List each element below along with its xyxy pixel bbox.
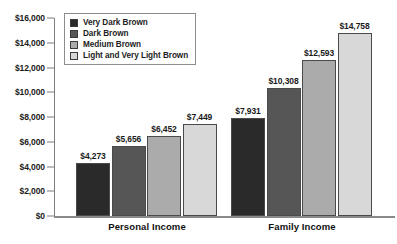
bar[interactable]: [231, 118, 265, 216]
y-axis-labels: $16,000$14,000$12,000$10,000$8,000$6,000…: [0, 0, 45, 244]
bar[interactable]: [338, 33, 372, 216]
legend-item-label: Light and Very Light Brown: [83, 51, 188, 60]
legend-item-label: Dark Brown: [83, 29, 128, 38]
y-axis-tick-mark: [47, 42, 54, 43]
legend-item: Light and Very Light Brown: [70, 50, 188, 61]
bar[interactable]: [302, 60, 336, 216]
y-axis-tick-label: $8,000: [0, 112, 45, 122]
y-axis-tick-label: $14,000: [0, 38, 45, 48]
chart-legend: Very Dark BrownDark BrownMedium BrownLig…: [64, 13, 196, 65]
legend-item-label: Very Dark Brown: [83, 18, 148, 27]
legend-swatch-icon: [70, 19, 78, 27]
bar-value-label: $14,758: [339, 21, 369, 31]
bar[interactable]: [76, 163, 110, 216]
x-axis-category-label: Family Income: [231, 221, 373, 232]
y-axis-tick-label: $10,000: [0, 87, 45, 97]
bar-group: $7,931$10,308$12,593$14,758: [231, 18, 373, 216]
bar-value-label: $4,273: [80, 151, 105, 161]
y-axis-tick-mark: [47, 191, 54, 192]
y-axis-tick-label: $0: [0, 211, 45, 221]
bar-value-label: $6,452: [151, 124, 176, 134]
bar[interactable]: [147, 136, 181, 216]
bar-chart: $16,000$14,000$12,000$10,000$8,000$6,000…: [0, 0, 397, 244]
legend-swatch-icon: [70, 52, 78, 60]
bar[interactable]: [183, 124, 217, 216]
bar-value-label: $7,449: [187, 112, 212, 122]
legend-item: Very Dark Brown: [70, 17, 188, 28]
legend-swatch-icon: [70, 30, 78, 38]
y-axis-tick-label: $16,000: [0, 13, 45, 23]
bar[interactable]: [112, 146, 146, 216]
y-axis-tick-mark: [47, 141, 54, 142]
y-axis-tick-mark: [47, 216, 54, 217]
y-axis-tick-mark: [47, 67, 54, 68]
y-axis-tick-label: $12,000: [0, 63, 45, 73]
legend-swatch-icon: [70, 41, 78, 49]
legend-item-label: Medium Brown: [83, 40, 141, 49]
y-axis-tick-marks: [47, 0, 54, 244]
x-axis-line: [54, 216, 395, 218]
legend-item: Medium Brown: [70, 39, 188, 50]
y-axis-tick-mark: [47, 92, 54, 93]
x-axis-category-label: Personal Income: [76, 221, 218, 232]
y-axis-tick-mark: [47, 117, 54, 118]
bar-value-label: $12,593: [304, 48, 334, 58]
bar-value-label: $10,308: [268, 76, 298, 86]
y-axis-tick-label: $2,000: [0, 186, 45, 196]
bar[interactable]: [267, 88, 301, 216]
y-axis-tick-label: $4,000: [0, 162, 45, 172]
y-axis-tick-label: $6,000: [0, 137, 45, 147]
bar-value-label: $7,931: [235, 106, 260, 116]
bar-value-label: $5,656: [116, 134, 141, 144]
legend-item: Dark Brown: [70, 28, 188, 39]
y-axis-tick-mark: [47, 18, 54, 19]
y-axis-tick-mark: [47, 166, 54, 167]
